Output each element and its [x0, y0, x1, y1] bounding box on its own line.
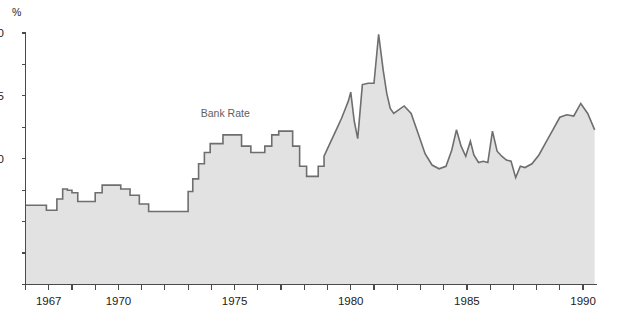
x-tick-label: 1985 — [454, 295, 480, 307]
bank-rate-annotation-label: Bank Rate — [201, 107, 250, 119]
chart-canvas: 2015105 196719701975198019851990 % Bank … — [0, 0, 619, 327]
x-tick-label: 1967 — [36, 295, 62, 307]
x-tick-label: 1975 — [222, 295, 248, 307]
x-tick-label: 1990 — [570, 295, 596, 307]
y-axis-unit-label: % — [12, 6, 21, 18]
y-tick-label: 20 — [0, 27, 4, 39]
x-tick-label: 1980 — [338, 295, 364, 307]
y-tick-label: 15 — [0, 90, 4, 102]
x-tick-label: 1970 — [106, 295, 132, 307]
y-tick-label: 10 — [0, 153, 4, 165]
bank-rate-chart-figure: 2015105 196719701975198019851990 % Bank … — [0, 0, 619, 327]
